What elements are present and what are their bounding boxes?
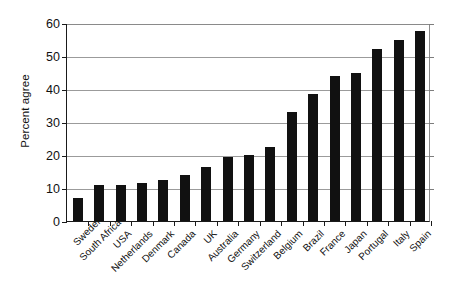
x-tick xyxy=(174,221,175,226)
x-tick xyxy=(260,221,261,226)
x-tick xyxy=(238,221,239,226)
bar-slot xyxy=(367,24,388,221)
x-tick xyxy=(345,221,346,226)
bar-slot xyxy=(217,24,238,221)
x-tick xyxy=(303,221,304,226)
bar xyxy=(158,180,168,221)
bar xyxy=(394,40,404,222)
x-tick xyxy=(131,221,132,226)
x-tick xyxy=(217,221,218,226)
bar-slot xyxy=(153,24,174,221)
y-tick-30 xyxy=(62,123,67,124)
bar xyxy=(265,147,275,221)
bar-slot xyxy=(131,24,152,221)
y-tick-label-30: 30 xyxy=(36,116,60,130)
bar xyxy=(308,94,318,221)
bar xyxy=(73,198,83,221)
bar-slot xyxy=(410,24,431,221)
y-tick-label-0: 0 xyxy=(36,215,60,229)
bar-slot xyxy=(260,24,281,221)
bar xyxy=(372,49,382,221)
y-tick-10 xyxy=(62,189,67,190)
bar-chart: Percent agree 0102030405060 SwedenSouth … xyxy=(0,0,457,294)
bar-slot xyxy=(195,24,216,221)
x-tick xyxy=(153,221,154,226)
bar xyxy=(287,112,297,221)
y-tick-50 xyxy=(62,57,67,58)
bar xyxy=(180,175,190,221)
y-tick-label-40: 40 xyxy=(36,83,60,97)
bar xyxy=(137,183,147,221)
x-tick xyxy=(195,221,196,226)
bar xyxy=(116,185,126,221)
bar xyxy=(244,155,254,221)
bar-slot xyxy=(174,24,195,221)
x-tick xyxy=(324,221,325,226)
y-tick-40 xyxy=(62,90,67,91)
x-axis-tick-labels: SwedenSouth AfricaUSANetherlandsDenmarkC… xyxy=(66,228,430,294)
bar-slot xyxy=(303,24,324,221)
x-tick xyxy=(388,221,389,226)
y-tick-label-50: 50 xyxy=(36,50,60,64)
bar-slot xyxy=(238,24,259,221)
bar xyxy=(415,31,425,221)
y-axis-title-label: Percent agree xyxy=(19,74,31,148)
y-tick-label-20: 20 xyxy=(36,149,60,163)
bar-slot xyxy=(324,24,345,221)
y-axis-tick-labels: 0102030405060 xyxy=(32,24,60,222)
bar xyxy=(201,167,211,221)
x-tick xyxy=(367,221,368,226)
x-tick xyxy=(410,221,411,226)
bar xyxy=(351,73,361,222)
y-tick-60 xyxy=(62,24,67,25)
bar-slot xyxy=(281,24,302,221)
y-tick-label-60: 60 xyxy=(36,17,60,31)
x-tick xyxy=(431,221,432,226)
bar-slot xyxy=(388,24,409,221)
bar-slot xyxy=(345,24,366,221)
y-tick-label-10: 10 xyxy=(36,182,60,196)
bar xyxy=(223,157,233,221)
bar-slot xyxy=(110,24,131,221)
plot-area xyxy=(66,24,430,222)
y-tick-20 xyxy=(62,156,67,157)
x-tick xyxy=(281,221,282,226)
bar-series xyxy=(67,24,429,221)
bar xyxy=(330,76,340,221)
bar-slot xyxy=(88,24,109,221)
bar-slot xyxy=(67,24,88,221)
y-tick-0 xyxy=(62,222,67,223)
